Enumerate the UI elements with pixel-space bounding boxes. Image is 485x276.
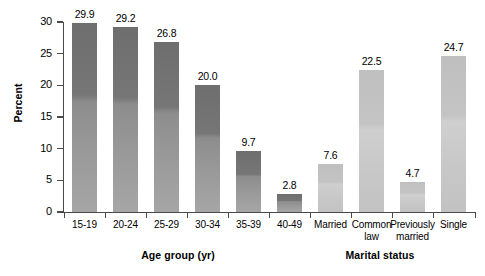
y-axis-tick-label: 5: [12, 174, 52, 185]
y-axis-tick: [57, 21, 63, 22]
bar: [195, 85, 220, 212]
x-axis-tick: [310, 213, 311, 218]
bar: [400, 182, 425, 212]
bar-value-label: 26.8: [145, 28, 188, 39]
x-axis-end-tick: [64, 213, 65, 218]
bar: [72, 23, 97, 212]
bar-value-label: 29.9: [63, 9, 106, 20]
bar-chart: Percent 051015202530 29.929.226.820.09.7…: [0, 0, 485, 276]
y-axis-tick-label: 0: [12, 206, 52, 217]
bar: [113, 27, 138, 212]
y-axis-tick: [57, 53, 63, 54]
bar: [359, 70, 384, 213]
y-axis-tick: [57, 180, 63, 181]
bar-value-label: 9.7: [227, 137, 270, 148]
bar-value-label: 24.7: [432, 42, 475, 53]
y-axis-tick: [57, 148, 63, 149]
bar: [154, 42, 179, 212]
bar-value-label: 29.2: [104, 13, 147, 24]
x-axis-tick: [146, 213, 147, 218]
x-axis-tick: [105, 213, 106, 218]
x-axis-tick: [433, 213, 434, 218]
x-axis-tick-label-line: married: [387, 231, 438, 243]
x-axis-tick-label-line: Single: [428, 219, 479, 231]
x-axis-tick: [228, 213, 229, 218]
x-axis-tick-label: Single: [428, 219, 479, 231]
y-axis-tick: [57, 116, 63, 117]
y-axis-tick-label: 10: [12, 143, 52, 154]
x-axis-tick: [351, 213, 352, 218]
y-axis-tick-label: 25: [12, 48, 52, 59]
y-axis-line: [63, 22, 64, 213]
y-axis-tick: [57, 85, 63, 86]
bar: [318, 164, 343, 212]
y-axis-tick-label: 15: [12, 111, 52, 122]
x-axis-end-tick: [475, 213, 476, 218]
bar: [441, 56, 466, 212]
bar-value-label: 22.5: [350, 56, 393, 67]
x-axis-title-marital-status: Marital status: [285, 249, 475, 261]
bar-value-label: 2.8: [268, 180, 311, 191]
x-axis-title-age-group: Age group (yr): [78, 249, 278, 261]
y-axis-tick-label: 30: [12, 16, 52, 27]
x-axis-tick: [392, 213, 393, 218]
bar-value-label: 20.0: [186, 71, 229, 82]
y-axis-tick-label: 20: [12, 79, 52, 90]
bar-value-label: 7.6: [309, 150, 352, 161]
bar: [277, 194, 302, 212]
bar: [236, 151, 261, 212]
x-axis-tick: [187, 213, 188, 218]
x-axis-tick: [269, 213, 270, 218]
bar-value-label: 4.7: [391, 168, 434, 179]
